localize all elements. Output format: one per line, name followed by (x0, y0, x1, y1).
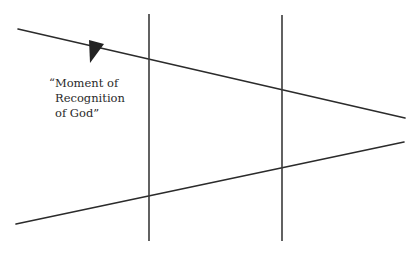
annotation-line-3: of God” (55, 106, 99, 120)
diagram-figure: “Moment of Recognition of God” (0, 0, 420, 254)
annotation-line-2: Recognition (55, 91, 125, 105)
bottom-diagonal-line (16, 142, 404, 224)
arrowhead-icon (89, 40, 104, 63)
annotation-label: “Moment of Recognition of God” (49, 76, 129, 120)
annotation-line-1: “Moment of (49, 76, 119, 90)
diagram-canvas: “Moment of Recognition of God” (0, 0, 420, 254)
